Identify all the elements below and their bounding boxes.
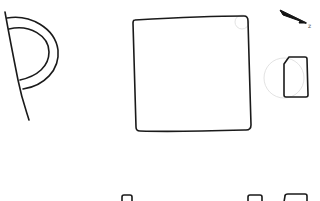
small-fixture-group bbox=[264, 57, 308, 98]
inner-arc bbox=[9, 28, 49, 80]
north-arrow-shaft bbox=[281, 11, 306, 23]
square-room-group bbox=[133, 15, 251, 131]
sketch-canvas: z bbox=[0, 0, 320, 201]
north-arrow-group: z bbox=[280, 10, 311, 29]
bottom-shape-3 bbox=[284, 194, 307, 201]
north-label: z bbox=[308, 22, 311, 29]
wall-door-swing-group bbox=[5, 12, 58, 120]
bottom-shapes-group bbox=[122, 194, 307, 201]
bottom-shape-2 bbox=[248, 195, 262, 201]
square-room bbox=[133, 16, 251, 131]
bottom-shape-1 bbox=[122, 195, 132, 201]
